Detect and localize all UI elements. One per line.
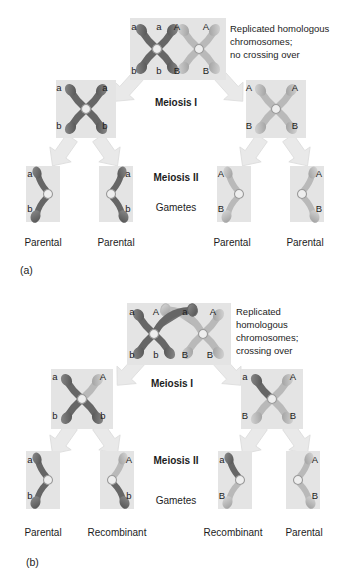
allele-label: b xyxy=(99,120,111,131)
gametes-label: Gametes xyxy=(134,202,218,213)
allele-label: a xyxy=(153,21,165,32)
outcome-label: Parental xyxy=(213,237,250,248)
allele-label: B xyxy=(215,203,227,214)
allele-label: b xyxy=(24,490,36,501)
caption-line: crossing over xyxy=(236,344,298,357)
allele-label: a xyxy=(239,371,251,382)
allele-label: b xyxy=(122,203,134,214)
allele-label: B xyxy=(179,349,191,360)
panel-tag: (b) xyxy=(26,556,39,568)
caption-line: no crossing over xyxy=(230,48,329,61)
allele-label: B xyxy=(289,120,301,131)
allele-label: A xyxy=(97,371,109,382)
allele-label: A xyxy=(207,306,219,317)
caption-line: Replicated xyxy=(236,305,298,318)
allele-label: a xyxy=(126,306,138,317)
allele-label: A xyxy=(287,371,299,382)
allele-label: b xyxy=(123,490,135,501)
allele-label: B xyxy=(313,203,325,214)
allele-label: B xyxy=(239,410,251,421)
gametes-label: Gametes xyxy=(134,495,218,506)
allele-label: B xyxy=(243,120,255,131)
allele-label: B xyxy=(287,410,299,421)
outcome-label: Parental xyxy=(286,237,323,248)
allele-label: A xyxy=(215,168,227,179)
allele-label: A xyxy=(243,82,255,93)
caption: Replicated homologous chromosomes; cross… xyxy=(236,305,298,357)
outcome-label: Parental xyxy=(24,237,61,248)
allele-label: a xyxy=(122,168,134,179)
allele-label: b xyxy=(128,65,140,76)
outcome-label: Recombinant xyxy=(204,527,263,538)
allele-label: a xyxy=(53,82,65,93)
allele-label: A xyxy=(123,454,135,465)
allele-label: b xyxy=(97,410,109,421)
allele-label: A xyxy=(150,306,162,317)
allele-label: A xyxy=(289,82,301,93)
meiosis-1-label: Meiosis I xyxy=(130,378,214,389)
allele-label: a xyxy=(99,82,111,93)
panel-a: a a A A b b B B Replicated homologous ch… xyxy=(0,0,350,290)
meiosis-crossing-over-figure: a a A A b b B B Replicated homologous ch… xyxy=(0,0,350,585)
allele-label: a xyxy=(24,168,36,179)
caption-line: chromosomes; xyxy=(236,331,298,344)
meiosis-1-label: Meiosis I xyxy=(134,97,218,108)
allele-label: A xyxy=(313,168,325,179)
caption-line: Replicated homologous xyxy=(230,22,329,35)
caption-line: homologous xyxy=(236,318,298,331)
allele-label: A xyxy=(309,454,321,465)
allele-label: a xyxy=(179,306,191,317)
allele-label: A xyxy=(171,21,183,32)
caption: Replicated homologous chromosomes; no cr… xyxy=(230,22,329,61)
panel-b: a A a A b b B B Replicated homologous ch… xyxy=(0,290,350,585)
allele-label: B xyxy=(171,65,183,76)
allele-label: b xyxy=(150,349,162,360)
allele-label: a xyxy=(216,454,228,465)
allele-label: a xyxy=(128,21,140,32)
outcome-label: Parental xyxy=(285,527,322,538)
allele-label: b xyxy=(24,203,36,214)
allele-label: b xyxy=(126,349,138,360)
allele-label: a xyxy=(24,454,36,465)
allele-label: a xyxy=(49,371,61,382)
meiosis-2-label: Meiosis II xyxy=(134,455,218,466)
caption-line: chromosomes; xyxy=(230,35,329,48)
allele-label: b xyxy=(53,120,65,131)
outcome-label: Parental xyxy=(97,237,134,248)
meiosis-2-label: Meiosis II xyxy=(134,172,218,183)
allele-label: b xyxy=(49,410,61,421)
panel-tag: (a) xyxy=(20,264,33,276)
outcome-label: Parental xyxy=(24,527,61,538)
allele-label: B xyxy=(309,490,321,501)
allele-label: B xyxy=(204,349,216,360)
outcome-label: Recombinant xyxy=(88,527,147,538)
allele-label: A xyxy=(200,21,212,32)
allele-label: B xyxy=(216,490,228,501)
allele-label: B xyxy=(200,65,212,76)
allele-label: b xyxy=(153,65,165,76)
